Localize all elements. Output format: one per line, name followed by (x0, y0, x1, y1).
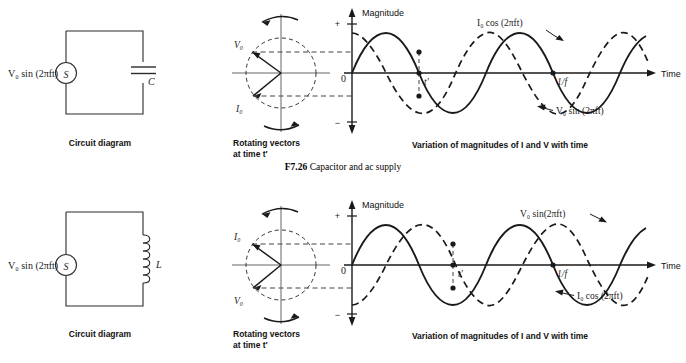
capacitor-circuit-diagram: S C V₀ sin (2πft) Circuit diagram (8, 31, 156, 148)
period-point (550, 262, 555, 267)
annotation-v0-sin: V₀ sin (2πft) (556, 106, 604, 117)
graph-caption: Variation of magnitudes of I and V with … (412, 331, 588, 341)
source-switch-label: S (64, 69, 69, 80)
annotation-i0-cos: I₀ cos (2πft) (477, 18, 523, 29)
tick-label-period: 1/f (557, 269, 568, 279)
origin-label: 0 (341, 265, 346, 276)
capacitor-waveform-graph: + − 0 Magnitude Time t′ 1/f I₀ cos (2πft… (335, 8, 681, 150)
tprime-point-upper (416, 49, 421, 54)
phasor-label-i0: I₀ (233, 232, 240, 242)
y-axis-plus-label: + (335, 211, 340, 221)
tprime-point-lower (416, 93, 421, 98)
phasor-caption-line2: at time t′ (233, 149, 268, 159)
phasor-label-v0: V₀ (234, 296, 243, 306)
rotation-arrow-bottom (264, 313, 299, 322)
annotation-v0-sin: V₀ sin(2πft) (520, 209, 565, 220)
tprime-point-axis (450, 262, 455, 267)
y-axis-minus-label: − (335, 310, 340, 320)
source-voltage-label: V₀ sin (2πft) (8, 68, 58, 80)
y-axis-title: Magnitude (362, 200, 404, 210)
phasor-vector-v0 (252, 52, 281, 73)
inductor-waveform-graph: + − 0 Magnitude Time t′ 1/f V₀ sin(2πft) (335, 200, 681, 341)
phasor-caption-line2: at time t′ (233, 340, 268, 350)
phasor-caption-line1: Rotating vectors (233, 138, 300, 148)
tick-label-tprime: t′ (424, 77, 430, 87)
annotation-i0-cos: I₀ cos (2πft) (577, 291, 623, 302)
phasor-label-v0: V₀ (234, 40, 243, 50)
figure-capacitor-ac-supply: S C V₀ sin (2πft) Circuit diagram V₀ (0, 0, 686, 182)
figure-caption: F7.26 Capacitor and ac supply (0, 162, 686, 172)
y-axis-minus-label: − (335, 118, 340, 128)
tick-label-tprime: t′ (458, 269, 464, 279)
inductor-figure-svg: S L V₀ sin (2πft) Circuit diagram (0, 180, 686, 363)
annotation-leader-v0-sin (590, 214, 607, 223)
circuit-diagram-caption: Circuit diagram (69, 138, 132, 148)
phasor-label-i0: I₀ (235, 104, 242, 114)
inductor-label: L (155, 259, 162, 270)
period-point (550, 70, 555, 75)
figure-caption-text: Capacitor and ac supply (310, 162, 402, 172)
rotation-arrow-top (262, 208, 298, 218)
tprime-point-lower (450, 285, 455, 290)
annotation-leader-i0-cos (555, 290, 574, 296)
tick-label-period: 1/f (557, 77, 568, 87)
origin-label: 0 (341, 73, 346, 84)
y-axis-title: Magnitude (362, 8, 404, 18)
inductor-phasor-diagram: I₀ V₀ Rotating vectors at time t′ (232, 206, 352, 350)
phasor-caption-line1: Rotating vectors (233, 329, 300, 339)
graph-caption: Variation of magnitudes of I and V with … (412, 140, 588, 150)
phasor-vector-i0 (253, 73, 281, 99)
inductor-coil-symbol (143, 235, 150, 283)
source-switch-label: S (64, 261, 69, 272)
figure-caption-number: F7.26 (285, 162, 307, 172)
annotation-leader-i0-cos (546, 30, 564, 41)
capacitor-figure-svg: S C V₀ sin (2πft) Circuit diagram V₀ (0, 0, 686, 182)
capacitor-label: C (148, 76, 155, 87)
tprime-point-upper (450, 241, 455, 246)
rotation-arrow-bottom (264, 121, 299, 130)
rotation-arrow-top (262, 16, 298, 26)
capacitor-phasor-diagram: V₀ I₀ Rotating vectors at time t′ (232, 14, 352, 159)
circuit-diagram-caption: Circuit diagram (69, 329, 132, 339)
inductor-circuit-diagram: S L V₀ sin (2πft) Circuit diagram (8, 212, 162, 339)
phasor-vector-v0 (253, 265, 281, 291)
source-voltage-label: V₀ sin (2πft) (8, 260, 58, 272)
x-axis-title: Time (661, 261, 681, 271)
y-axis-plus-label: + (335, 19, 340, 29)
x-axis-title: Time (661, 69, 681, 79)
tprime-point-axis (416, 70, 421, 75)
phasor-vector-i0 (252, 244, 281, 265)
figure-inductor-ac-supply: S L V₀ sin (2πft) Circuit diagram (0, 180, 686, 363)
